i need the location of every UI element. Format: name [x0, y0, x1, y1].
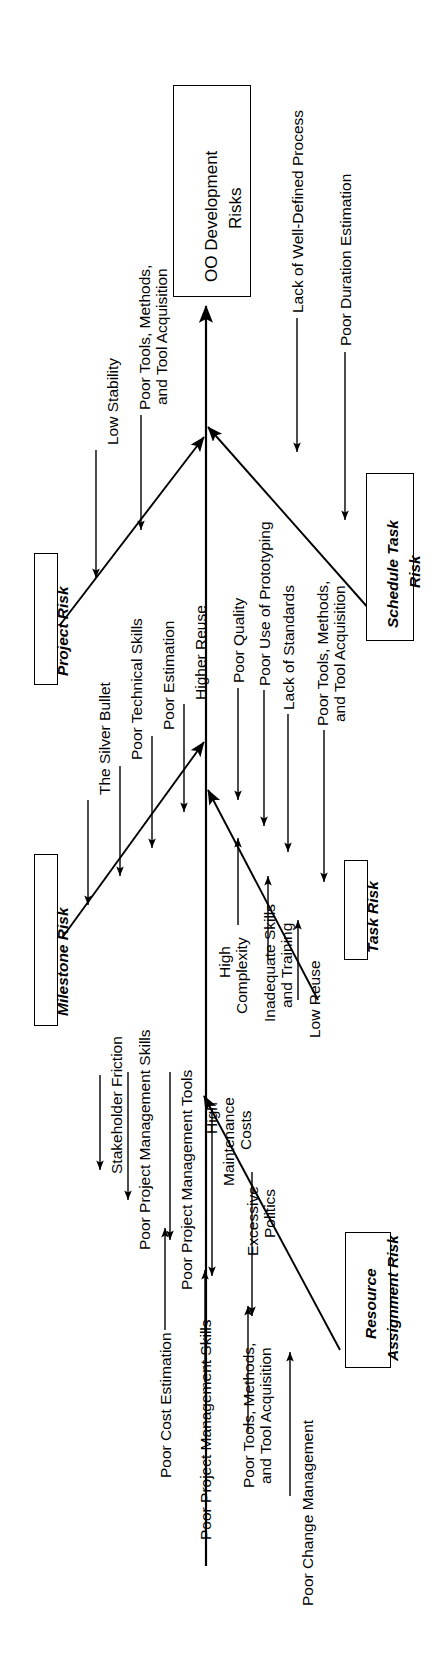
cause-poor-technical-skills: Poor Technical Skills — [128, 618, 145, 760]
cause-poor-use-of-prototyping: Poor Use of Prototyping — [256, 521, 273, 686]
cause-poor-duration-estimation: Poor Duration Estimation — [337, 174, 354, 346]
category-label-task-risk: Task Risk — [364, 881, 381, 953]
cause-poor-change-management: Poor Change Management — [299, 1420, 316, 1606]
cause-the-silver-bullet: The Silver Bullet — [96, 682, 113, 795]
cause-poor-tools-methods-1b: and Tool Acquisition — [153, 268, 170, 405]
cause-and-training: and Training — [278, 923, 295, 1008]
cause-costs: Costs — [237, 1110, 254, 1150]
cause-poor-tools-methods-1a: Poor Tools, Methods, — [136, 265, 153, 410]
cause-lack-well-defined-process: Lack of Well-Defined Process — [289, 110, 306, 313]
cause-arrows-task-risk — [238, 688, 324, 882]
cause-stakeholder-friction: Stakeholder Friction — [108, 1036, 125, 1174]
rib-milestone-risk — [62, 742, 204, 938]
effect-label-line2: Risks — [226, 187, 245, 229]
category-label-schedule-line1: Schedule Task — [384, 520, 401, 628]
effect-label-line1: OO Development — [202, 151, 221, 282]
cause-poor-tools-methods-2b: and Tool Acquisition — [331, 585, 348, 722]
cause-lack-of-standards: Lack of Standards — [280, 585, 297, 710]
category-label-project-risk: Project Risk — [54, 586, 71, 676]
cause-poor-quality: Poor Quality — [230, 598, 247, 683]
category-label-resource-line2: Assignment Risk — [384, 1235, 401, 1361]
category-label-resource-line1: Resource — [362, 1268, 379, 1339]
cause-poor-tools-methods-2a: Poor Tools, Methods, — [314, 581, 331, 726]
category-box-milestone-risk: Milestone Risk — [34, 854, 58, 1026]
category-box-project-risk: Project Risk — [34, 553, 58, 685]
cause-poor-pm-skills-2: Poor Project Management Skills — [197, 1319, 214, 1540]
category-label-schedule-line2: Risk — [406, 555, 423, 588]
category-label-milestone-risk: Milestone Risk — [54, 907, 71, 1016]
category-box-task-risk: Task Risk — [344, 860, 368, 960]
cause-higher-reuse: Higher Reuse — [192, 605, 209, 700]
cause-low-stability: Low Stability — [104, 358, 121, 445]
cause-complexity: Complexity — [233, 937, 250, 1014]
cause-high-2: High — [203, 1102, 220, 1134]
cause-arrows-schedule-task-risk — [297, 318, 345, 520]
cause-maintenance: Maintenance — [220, 1097, 237, 1186]
cause-poor-pm-tools: Poor Project Management Tools — [178, 1070, 195, 1290]
cause-high: High — [216, 946, 233, 978]
effect-box: OO Development Risks — [173, 85, 251, 297]
cause-poor-cost-estimation: Poor Cost Estimation — [157, 1332, 174, 1478]
cause-politics: Politics — [261, 1189, 278, 1238]
cause-poor-tools-methods-3b: and Tool Acquisition — [257, 1347, 274, 1484]
cause-poor-pm-skills-1: Poor Project Management Skills — [136, 1029, 153, 1250]
category-box-schedule-task-risk: Schedule Task Risk — [366, 473, 414, 641]
fishbone-diagram: OO Development Risks Project Risk Milest… — [0, 0, 441, 1662]
category-box-resource-assignment-risk: Resource Assignment Risk — [345, 1232, 391, 1368]
cause-poor-estimation: Poor Estimation — [160, 621, 177, 730]
cause-inadequate-skills: Inadequate Skills — [261, 904, 278, 1022]
cause-excessive: Excessive — [244, 1186, 261, 1256]
cause-low-reuse: Low Reuse — [306, 960, 323, 1038]
cause-poor-tools-methods-3a: Poor Tools, Methods, — [240, 1343, 257, 1488]
rib-project-risk — [60, 437, 204, 625]
